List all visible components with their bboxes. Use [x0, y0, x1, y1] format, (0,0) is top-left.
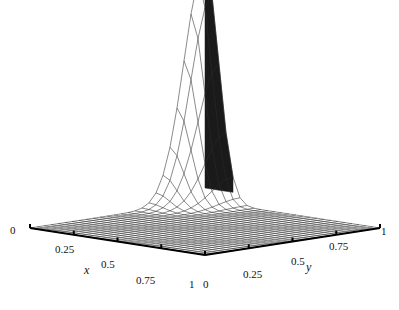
tick-label-x-2: 0.5 — [101, 258, 115, 270]
axis-name-x: x — [84, 263, 89, 278]
tick-label-x-1: 0.25 — [55, 243, 74, 255]
tick-label-y-0: 0 — [203, 278, 209, 290]
surface-mesh-canvas — [0, 0, 399, 310]
tick-label-y-1: 0.25 — [243, 268, 262, 280]
surface-fill-group — [30, 0, 380, 255]
axis-name-y: y — [306, 260, 311, 275]
tick-label-y-2: 0.5 — [291, 255, 305, 267]
tick-label-x-3: 0.75 — [136, 274, 155, 286]
tick-label-x-4: 1 — [189, 278, 195, 290]
tick-label-y-3: 0.75 — [329, 240, 348, 252]
tick-label-y-4: 1 — [381, 225, 387, 237]
tick-label-x-0: 0 — [10, 224, 16, 236]
surface-plot-figure: 00.250.50.75100.250.50.751 xy — [0, 0, 399, 310]
